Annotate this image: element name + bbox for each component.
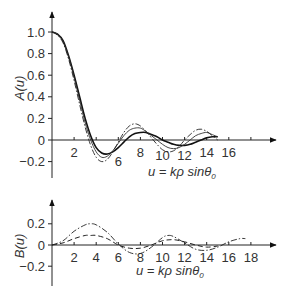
x-tick-label: 12 bbox=[177, 148, 191, 163]
y-tick-label: 0.6 bbox=[27, 68, 45, 83]
series-dashed-line bbox=[52, 235, 218, 248]
x-tick-label: 6 bbox=[115, 250, 122, 265]
x-tick-label: 14 bbox=[199, 145, 213, 160]
x-tick-label: 2 bbox=[70, 250, 77, 265]
series-solid-line bbox=[52, 32, 218, 154]
y-tick-label: 0.2 bbox=[27, 216, 45, 231]
lower-series bbox=[52, 224, 245, 254]
y-tick-label: 1.0 bbox=[27, 25, 45, 40]
y-tick-label: −0.2 bbox=[19, 154, 45, 169]
y-tick-label: 0 bbox=[38, 238, 45, 253]
y-tick-label: 0.2 bbox=[27, 111, 45, 126]
lower-x-axis-label: u = kρ sinθ0 bbox=[136, 263, 204, 280]
upper-panel-a: 1.00.80.60.40.20−0.2 26810121416 A(u) u … bbox=[12, 12, 276, 181]
series-thin-solid-line bbox=[52, 32, 218, 158]
x-tick-label: 4 bbox=[93, 250, 100, 265]
x-tick-label: 16 bbox=[222, 145, 236, 160]
upper-series bbox=[52, 32, 218, 162]
y-tick-label: 0 bbox=[38, 133, 45, 148]
y-tick-label: 0.4 bbox=[27, 89, 45, 104]
x-tick-label: 2 bbox=[70, 145, 77, 160]
series-dash-dot-line bbox=[52, 224, 245, 254]
x-tick-label: 16 bbox=[222, 250, 236, 265]
x-tick-label: 8 bbox=[137, 145, 144, 160]
chart-figure: 1.00.80.60.40.20−0.2 26810121416 A(u) u … bbox=[0, 0, 287, 301]
x-tick-label: 6 bbox=[115, 154, 122, 169]
series-dash-dot-line bbox=[52, 32, 218, 162]
upper-x-axis-label: u = kρ sinθ0 bbox=[148, 164, 216, 181]
y-tick-label: 0.8 bbox=[27, 46, 45, 61]
x-tick-label: 14 bbox=[199, 250, 213, 265]
lower-panel-b: 0.20−0.2 24681012141618 B(u) u = kρ sinθ… bbox=[12, 200, 276, 286]
x-tick-label: 18 bbox=[244, 250, 258, 265]
y-tick-label: −0.2 bbox=[19, 259, 45, 274]
lower-y-axis-label: B(u) bbox=[12, 234, 27, 259]
upper-y-axis-label: A(u) bbox=[12, 76, 27, 102]
